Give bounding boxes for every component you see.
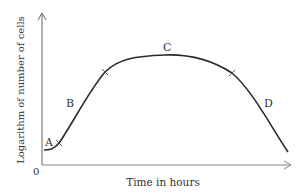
y-axis-label: Logarithm of number of cells: [15, 16, 26, 164]
phase-boundary-ticks: [56, 69, 235, 146]
phase-label-d: D: [264, 97, 273, 110]
phase-label-c: C: [163, 41, 171, 54]
phase-label-b: B: [66, 97, 74, 110]
growth-curve-line: [44, 55, 288, 152]
origin-label: 0: [33, 166, 39, 177]
x-axis-label: Time in hours: [126, 176, 200, 188]
phase-label-a: A: [44, 136, 54, 149]
growth-curve-diagram: A B C D 0 Time in hours Logarithm of num…: [0, 0, 306, 195]
